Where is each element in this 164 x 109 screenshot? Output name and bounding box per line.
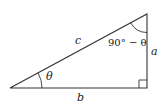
- side-label-a: a: [151, 45, 158, 58]
- hypotenuse-label-c: c: [75, 34, 81, 47]
- theta-label: θ: [46, 70, 53, 83]
- theta-angle-arc: [38, 73, 42, 88]
- complement-angle-label: 90° − θ: [108, 37, 146, 48]
- side-label-b: b: [77, 91, 84, 104]
- complement-angle-arc: [131, 23, 147, 33]
- right-triangle-diagram: c a b θ 90° − θ: [0, 0, 164, 109]
- right-angle-marker: [139, 80, 147, 88]
- triangle-outline: [10, 14, 147, 88]
